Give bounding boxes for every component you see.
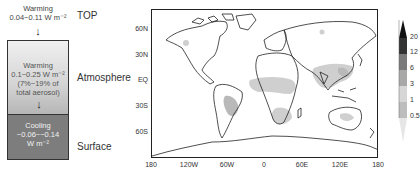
y-tick-30s: 30S: [124, 102, 148, 109]
x-tick-60w: 60W: [212, 161, 242, 168]
top-flux-label: Warming 0.04~0.11 W m⁻²: [0, 5, 76, 22]
y-tick-60s: 60S: [124, 128, 148, 135]
surface-text: Cooling −0.06~−0.14 W m⁻²: [8, 121, 68, 148]
world-map: [151, 9, 378, 158]
surface-box: Cooling −0.06~−0.14 W m⁻²: [7, 114, 69, 160]
x-tick-60e: 60E: [287, 161, 317, 168]
x-tick-120e: 120E: [325, 161, 355, 168]
colorbar: [398, 20, 408, 142]
down-arrow-icon: ↓: [33, 26, 43, 37]
colorbar-label-0-5: 0.5: [410, 112, 420, 119]
atmosphere-text: Warming 0.1~0.25 W m⁻² (7%~19% of total …: [8, 61, 68, 97]
colorbar-svg: [398, 20, 408, 142]
surface-layer-label: Surface: [77, 141, 111, 152]
top-flux-value: 0.04~0.11 W m⁻²: [0, 14, 76, 23]
atmosphere-fraction: (7%~19% of: [8, 79, 68, 88]
colorbar-label-1: 1: [410, 96, 414, 103]
y-tick-eq: EQ: [124, 76, 148, 83]
colorbar-label-6: 6: [410, 64, 414, 71]
colorbar-label-20: 20: [410, 33, 418, 40]
top-layer-label: TOP: [77, 10, 97, 21]
atmosphere-value: 0.1~0.25 W m⁻²: [8, 70, 68, 79]
colorbar-label-12: 12: [410, 48, 418, 55]
surface-unit: W m⁻²: [8, 139, 68, 148]
atmosphere-title: Warming: [8, 61, 68, 70]
down-arrow-icon: ↓: [34, 99, 44, 110]
x-tick-120w: 120W: [174, 161, 204, 168]
x-tick-180e: 180: [363, 161, 393, 168]
y-tick-30n: 30N: [124, 51, 148, 58]
colorbar-label-3: 3: [410, 80, 414, 87]
atmosphere-layer-label: Atmosphere: [77, 72, 131, 83]
atmosphere-fraction-2: total aerosol): [8, 88, 68, 97]
surface-value: −0.06~−0.14: [8, 130, 68, 139]
x-tick-0: 0: [249, 161, 279, 168]
world-map-svg: [152, 10, 378, 158]
atmosphere-box: Warming 0.1~0.25 W m⁻² (7%~19% of total …: [7, 40, 69, 115]
y-tick-60n: 60N: [124, 25, 148, 32]
surface-title: Cooling: [8, 121, 68, 130]
x-tick-180w: 180: [136, 161, 166, 168]
